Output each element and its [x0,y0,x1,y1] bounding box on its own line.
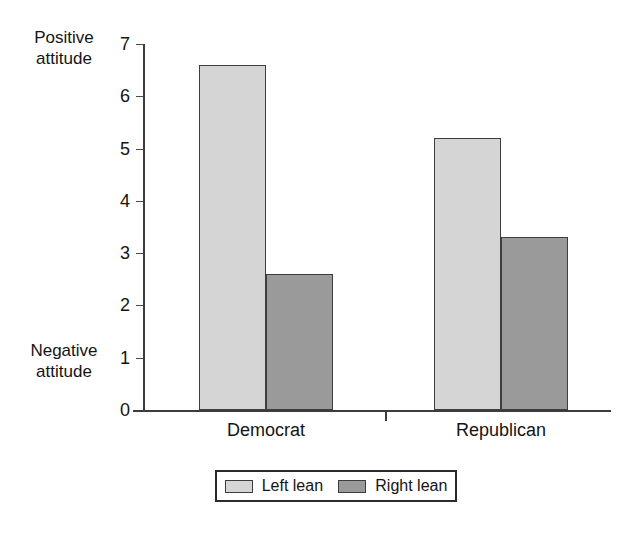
bar-democrat-right-lean [266,274,333,410]
bar-republican-left-lean [434,138,501,410]
bar-chart: Positive attitude Negative attitude 0123… [0,0,640,538]
legend-swatch-icon-0 [225,480,253,493]
legend-item-right-lean[interactable]: Right lean [338,478,447,494]
category-label-democrat: Democrat [186,419,346,441]
legend-label-1: Right lean [375,478,447,494]
bar-democrat-left-lean [199,65,266,410]
legend-item-left-lean[interactable]: Left lean [225,478,323,494]
category-label-republican: Republican [421,419,581,441]
legend: Left leanRight lean [215,470,457,502]
legend-swatch-icon-1 [338,480,366,493]
bar-republican-right-lean [501,237,568,410]
plot-area [0,0,640,538]
legend-label-0: Left lean [262,478,323,494]
